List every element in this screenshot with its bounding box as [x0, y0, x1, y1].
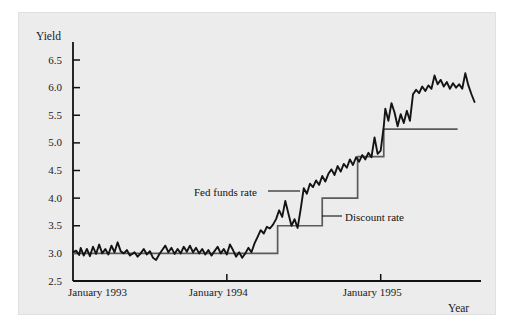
y-tick-label: 5.0: [28, 137, 62, 148]
x-tick-label: January 1995: [343, 287, 402, 298]
y-tick-label: 3.0: [28, 248, 62, 259]
line-chart: [0, 0, 514, 335]
x-axis-ticks: [227, 274, 381, 281]
chart-series: [73, 73, 475, 260]
y-tick-label: 5.5: [28, 110, 62, 121]
discount-rate-line: [73, 129, 458, 253]
y-tick-label: 3.5: [28, 220, 62, 231]
y-tick-label: 6.5: [28, 55, 62, 66]
y-axis-title: Yield: [36, 31, 61, 42]
fed-funds-rate-line: [73, 73, 475, 260]
annotation-fed-funds-rate: Fed funds rate: [194, 186, 257, 198]
y-tick-label: 4.5: [28, 165, 62, 176]
y-tick-label: 4.0: [28, 193, 62, 204]
x-tick-label: January 1993: [68, 287, 127, 298]
x-tick-label: January 1994: [189, 287, 248, 298]
y-tick-label: 2.5: [28, 276, 62, 287]
annotation-discount-rate: Discount rate: [345, 211, 404, 223]
x-axis-title: Year: [448, 303, 469, 314]
y-tick-label: 6.0: [28, 82, 62, 93]
y-axis-ticks: [73, 60, 80, 253]
figure-page: Yield Year 2.53.03.54.04.55.05.56.06.5 J…: [0, 0, 514, 335]
